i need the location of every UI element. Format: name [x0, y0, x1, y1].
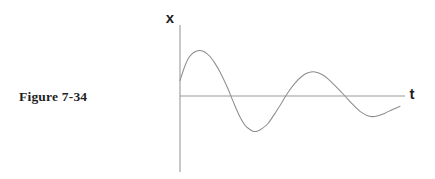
vertical-axis-label: x: [166, 9, 175, 26]
figure-container: Figure 7-34 x t: [0, 0, 435, 179]
damped-oscillation-plot: x t: [0, 0, 435, 179]
horizontal-axis-label: t: [410, 85, 415, 102]
plot-area: x t: [0, 0, 435, 179]
damped-oscillation-curve: [180, 50, 400, 131]
